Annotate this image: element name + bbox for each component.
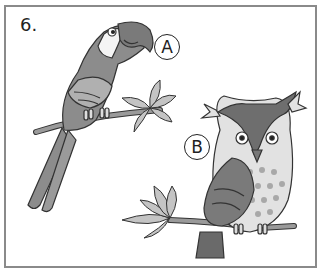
option-b-label: B <box>184 134 210 160</box>
option-a-label: A <box>154 34 180 60</box>
parrot-leaves <box>122 80 176 132</box>
owl <box>196 92 306 258</box>
parrot <box>28 22 153 212</box>
owl-leaves <box>122 186 177 238</box>
